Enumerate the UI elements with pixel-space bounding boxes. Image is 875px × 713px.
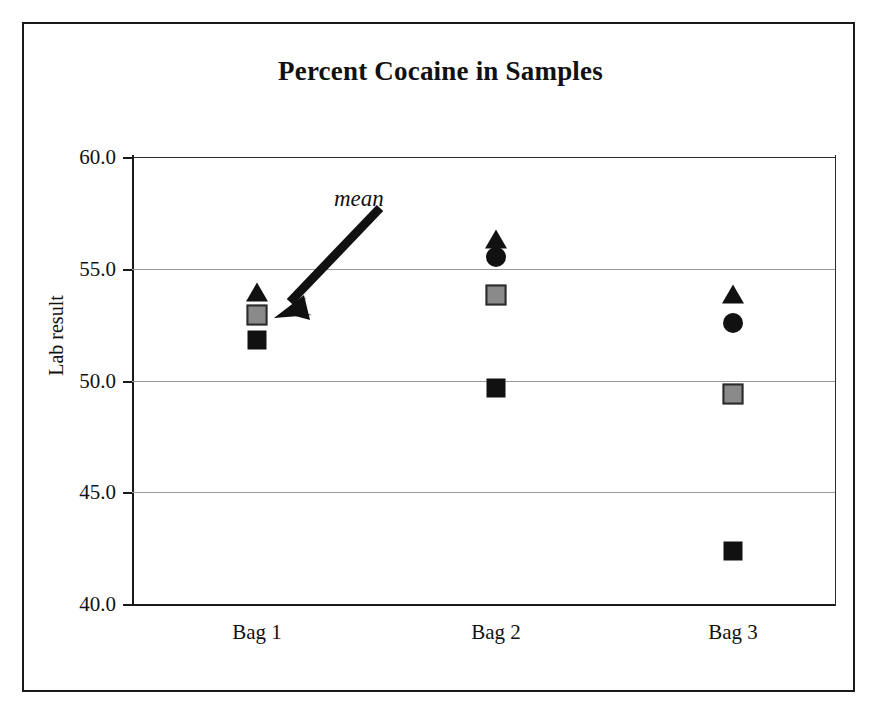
- gridline-55: [132, 269, 835, 270]
- ytick-mark-50: [123, 381, 132, 383]
- gray-square-marker-bag-1[interactable]: [247, 305, 268, 326]
- gray-square-marker-bag-3[interactable]: [723, 384, 744, 405]
- y-axis-label: Lab result: [45, 241, 68, 431]
- figure-frame: Percent Cocaine in Samples 60.0 55.0 50.…: [22, 22, 855, 692]
- circle-marker-bag-3[interactable]: [723, 313, 743, 333]
- x-axis-line: [132, 604, 835, 606]
- triangle-marker-bag-1[interactable]: [246, 283, 268, 302]
- triangle-marker-bag-2[interactable]: [485, 230, 507, 249]
- plot-top-edge: [132, 157, 835, 158]
- ytick-mark-40: [123, 604, 132, 606]
- black-square-marker-bag-1[interactable]: [248, 331, 267, 350]
- ytick-label-40: 40.0: [38, 592, 116, 617]
- xtick-label-bag-2: Bag 2: [416, 620, 576, 645]
- circle-marker-bag-2[interactable]: [486, 247, 506, 267]
- gray-square-marker-bag-2[interactable]: [486, 285, 507, 306]
- black-square-marker-bag-3[interactable]: [724, 542, 743, 561]
- ytick-label-60: 60.0: [38, 145, 116, 170]
- mean-annotation-label: mean: [334, 186, 384, 212]
- gridline-50: [132, 381, 835, 382]
- triangle-marker-bag-3[interactable]: [722, 285, 744, 304]
- ytick-mark-60: [123, 157, 132, 159]
- ytick-mark-45: [123, 492, 132, 494]
- plot-right-edge: [835, 155, 836, 606]
- xtick-label-bag-1: Bag 1: [177, 620, 337, 645]
- ytick-mark-55: [123, 269, 132, 271]
- ytick-label-45: 45.0: [38, 480, 116, 505]
- gridline-45: [132, 492, 835, 493]
- chart-title: Percent Cocaine in Samples: [24, 56, 857, 87]
- black-square-marker-bag-2[interactable]: [487, 379, 506, 398]
- xtick-label-bag-3: Bag 3: [653, 620, 813, 645]
